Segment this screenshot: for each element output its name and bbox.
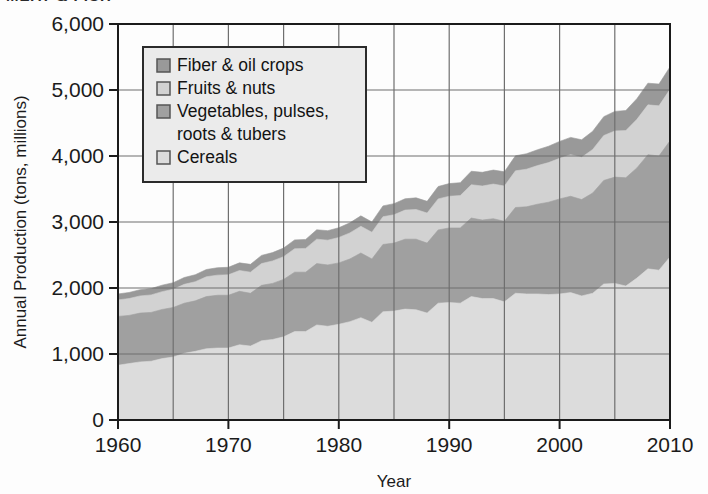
x-tick-label: 2010 (647, 433, 694, 456)
legend-label: Cereals (177, 147, 238, 167)
cropped-header-fragment: MEAT & FISH (0, 0, 708, 8)
x-tick-label: 1980 (315, 433, 362, 456)
x-axis-title: Year (377, 472, 412, 491)
x-tick-label: 2000 (536, 433, 583, 456)
y-tick-label: 6,000 (51, 12, 104, 35)
x-tick-label: 1970 (205, 433, 252, 456)
y-tick-label: 0 (92, 408, 104, 431)
legend-swatch-vegetables[interactable] (157, 105, 170, 118)
x-tick-label: 1960 (95, 433, 142, 456)
legend-swatch-cereals[interactable] (157, 151, 170, 164)
chart-legend: Fiber & oil cropsFruits & nutsVegetables… (143, 47, 366, 182)
y-axis-title: Annual Production (tons, millions) (11, 95, 30, 348)
y-tick-label: 1,000 (51, 342, 104, 365)
stacked-area-chart: 01,0002,0003,0004,0005,0006,000 19601970… (0, 0, 708, 494)
legend-swatch-fruits-nuts[interactable] (157, 82, 170, 95)
legend-label: Fiber & oil crops (177, 55, 304, 75)
legend-swatch-fiber-oil-crops[interactable] (157, 59, 170, 72)
y-tick-labels: 01,0002,0003,0004,0005,0006,000 (51, 12, 104, 431)
figure-container: MEAT & FISH 01,0002,0003,0004,0005,0006,… (0, 0, 708, 494)
legend-label: Fruits & nuts (177, 78, 275, 98)
y-tick-label: 3,000 (51, 210, 104, 233)
x-tick-label: 1990 (426, 433, 473, 456)
y-tick-label: 5,000 (51, 78, 104, 101)
legend-label-continued: roots & tubers (177, 124, 286, 144)
x-tick-labels: 196019701980199020002010 (95, 433, 694, 456)
y-tick-label: 4,000 (51, 144, 104, 167)
y-tick-label: 2,000 (51, 276, 104, 299)
legend-label: Vegetables, pulses, (177, 101, 329, 121)
